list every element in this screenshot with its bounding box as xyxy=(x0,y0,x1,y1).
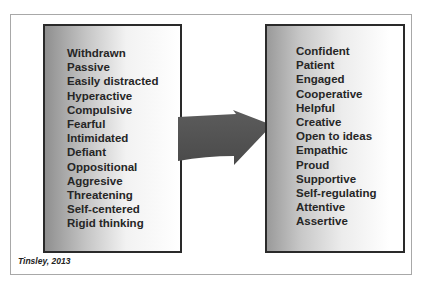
trait-item: Passive xyxy=(67,60,158,74)
trait-item: Engaged xyxy=(296,72,377,86)
trait-item: Assertive xyxy=(296,214,377,228)
trait-item: Cooperative xyxy=(296,87,377,101)
trait-item: Aggresive xyxy=(67,174,158,188)
trait-item: Hyperactive xyxy=(67,89,158,103)
trait-item: Patient xyxy=(296,58,377,72)
trait-item: Empathic xyxy=(296,143,377,157)
trait-item: Defiant xyxy=(67,145,158,159)
trait-item: Supportive xyxy=(296,172,377,186)
trait-item: Creative xyxy=(296,115,377,129)
trait-item: Helpful xyxy=(296,101,377,115)
trait-item: Compulsive xyxy=(67,103,158,117)
trait-item: Proud xyxy=(296,158,377,172)
before-traits-box: Withdrawn Passive Easily distracted Hype… xyxy=(43,24,182,253)
trait-item: Oppositional xyxy=(67,160,158,174)
trait-item: Easily distracted xyxy=(67,74,158,88)
trait-item: Confident xyxy=(296,44,377,58)
trait-item: Self-regulating xyxy=(296,186,377,200)
after-traits-box: Confident Patient Engaged Cooperative He… xyxy=(265,24,405,253)
trait-item: Self-centered xyxy=(67,202,158,216)
before-traits-list: Withdrawn Passive Easily distracted Hype… xyxy=(67,46,158,231)
trait-item: Open to ideas xyxy=(296,129,377,143)
after-traits-list: Confident Patient Engaged Cooperative He… xyxy=(296,44,377,229)
trait-item: Threatening xyxy=(67,188,158,202)
trait-item: Fearful xyxy=(67,117,158,131)
trait-item: Rigid thinking xyxy=(67,216,158,230)
right-arrow-icon xyxy=(176,108,276,168)
trait-item: Intimidated xyxy=(67,131,158,145)
citation-caption: Tinsley, 2013 xyxy=(18,256,70,266)
trait-item: Attentive xyxy=(296,200,377,214)
trait-item: Withdrawn xyxy=(67,46,158,60)
